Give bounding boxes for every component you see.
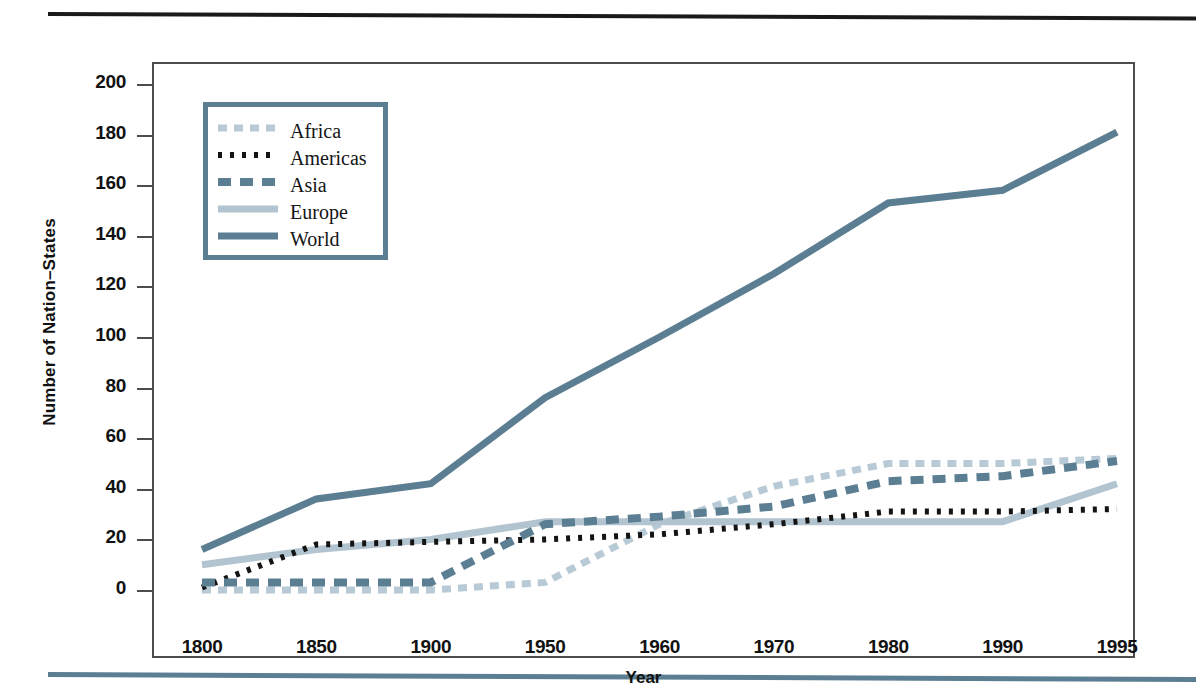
x-axis-tick-label: 1900 [410, 636, 451, 658]
y-axis-tick-label: 40 [105, 476, 126, 498]
chart-legend: AfricaAmericasAsiaEuropeWorld [203, 102, 388, 260]
y-axis-tick: 120 [0, 286, 152, 287]
legend-label: Africa [290, 121, 341, 141]
legend-item-europe: Europe [208, 198, 383, 225]
y-axis-tick: 80 [0, 388, 152, 389]
y-axis-tick-mark [137, 185, 152, 187]
x-axis-tick-label: 1995 [1097, 636, 1138, 658]
legend-swatch-africa-icon [218, 124, 278, 138]
y-axis-tick-mark [137, 489, 152, 491]
y-axis-tick-mark [137, 539, 152, 541]
y-axis-tick-label: 20 [105, 526, 126, 548]
y-axis-tick: 40 [0, 489, 152, 490]
y-axis-ticks: 020406080100120140160180200 [0, 22, 152, 662]
y-axis-tick: 160 [0, 185, 152, 186]
y-axis-tick-label: 60 [105, 425, 126, 447]
y-axis-tick-label: 0 [116, 577, 126, 599]
y-axis-tick: 100 [0, 337, 152, 338]
line-chart-figure: Number of Nation–States 0204060801001201… [0, 22, 1204, 662]
legend-item-africa: Africa [208, 117, 383, 144]
y-axis-tick-mark [137, 135, 152, 137]
top-divider-rule [48, 12, 1196, 20]
y-axis-tick-label: 140 [95, 223, 126, 245]
y-axis-tick-label: 120 [95, 273, 126, 295]
legend-label: Europe [290, 202, 348, 222]
legend-swatch-world-icon [218, 232, 278, 246]
y-axis-tick-label: 160 [95, 172, 126, 194]
y-axis-tick-label: 80 [105, 375, 126, 397]
legend-swatch-asia-icon [218, 178, 278, 192]
legend-swatch-americas-icon [218, 151, 278, 165]
y-axis-tick-mark [137, 286, 152, 288]
y-axis-tick-label: 200 [95, 71, 126, 93]
y-axis-tick-mark [137, 590, 152, 592]
y-axis-tick-label: 100 [95, 324, 126, 346]
y-axis-tick: 0 [0, 590, 152, 591]
y-axis-tick: 20 [0, 539, 152, 540]
legend-label: Americas [290, 148, 367, 168]
x-axis-tick-label: 1800 [182, 636, 223, 658]
legend-label: World [290, 229, 340, 249]
y-axis-tick-mark [137, 337, 152, 339]
y-axis-tick-mark [137, 236, 152, 238]
x-axis-tick-label: 1990 [982, 636, 1023, 658]
legend-item-americas: Americas [208, 144, 383, 171]
x-axis-tick-label: 1980 [868, 636, 909, 658]
y-axis-tick: 200 [0, 84, 152, 85]
y-axis-tick: 140 [0, 236, 152, 237]
y-axis-tick-mark [137, 438, 152, 440]
x-axis-title: Year [152, 668, 1135, 688]
x-axis-tick-label: 1970 [754, 636, 795, 658]
y-axis-tick: 180 [0, 135, 152, 136]
legend-item-asia: Asia [208, 171, 383, 198]
legend-swatch-europe-icon [218, 205, 278, 219]
y-axis-tick: 60 [0, 438, 152, 439]
x-axis-tick-label: 1950 [525, 636, 566, 658]
y-axis-tick-mark [137, 84, 152, 86]
y-axis-tick-mark [137, 388, 152, 390]
legend-item-world: World [208, 225, 383, 252]
x-axis-tick-label: 1960 [639, 636, 680, 658]
x-axis-tick-label: 1850 [296, 636, 337, 658]
figure-page: Number of Nation–States 0204060801001201… [0, 0, 1204, 696]
legend-label: Asia [290, 175, 327, 195]
y-axis-tick-label: 180 [95, 122, 126, 144]
